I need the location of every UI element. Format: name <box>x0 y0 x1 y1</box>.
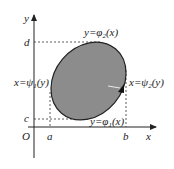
tick-a: a <box>47 130 53 142</box>
y-axis-label: y <box>23 12 29 24</box>
x-axis-label: x <box>145 130 151 142</box>
tick-c: c <box>24 112 29 124</box>
curve-lower-label: y=φ1(x) <box>89 115 124 129</box>
curve-upper-label: y=φ2(x) <box>83 26 118 40</box>
curve-left-label: x=ψ1(y) <box>13 76 49 90</box>
origin-label: O <box>22 130 30 142</box>
tick-b: b <box>123 130 129 142</box>
double-integral-region-diagram: y x O a b c d y=φ2(x) y=φ1(x) x=ψ1(y) x=… <box>0 0 174 169</box>
tick-d: d <box>24 36 30 48</box>
curve-right-label: x=ψ2(y) <box>128 76 164 90</box>
